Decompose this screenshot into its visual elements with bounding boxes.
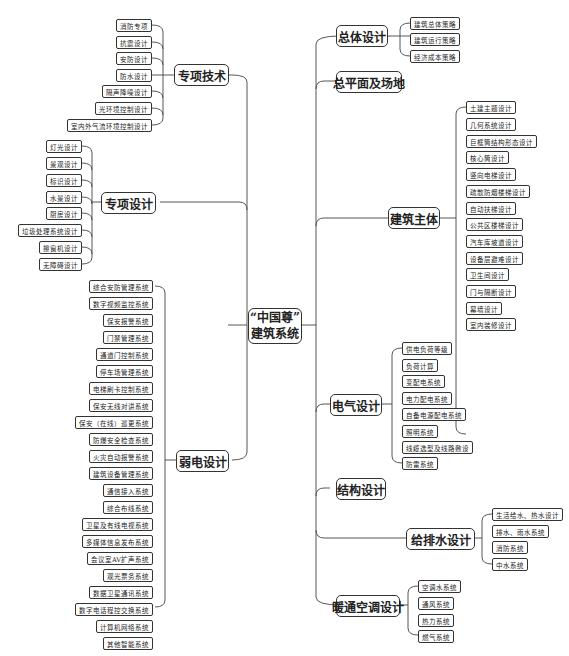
leaf-node[interactable]: 标识设计 xyxy=(46,174,82,187)
leaf-label: 热力系统 xyxy=(422,616,450,626)
leaf-label: 无障碍设计 xyxy=(43,260,78,270)
leaf-node[interactable]: 保安（在线）巡更系统 xyxy=(75,416,153,429)
leaf-node[interactable]: 灯光设计 xyxy=(46,140,82,153)
leaf-node[interactable]: 经济成本策略 xyxy=(410,50,460,63)
leaf-node[interactable]: 燃气系统 xyxy=(418,630,454,643)
leaf-node[interactable]: 数据卫星通讯系统 xyxy=(89,586,153,599)
leaf-node[interactable]: 厨房设计 xyxy=(46,207,82,220)
leaf-node[interactable]: 幕墙设计 xyxy=(466,302,502,315)
branch-ruodian-sheji[interactable]: 弱电设计 xyxy=(176,450,229,472)
leaf-label: 抗震设计 xyxy=(120,38,148,48)
leaf-label: 水景设计 xyxy=(50,193,78,203)
leaf-node[interactable]: 光环境控制设计 xyxy=(95,102,152,115)
leaf-node[interactable]: 热力系统 xyxy=(418,614,454,627)
leaf-node[interactable]: 中水系统 xyxy=(492,558,528,571)
leaf-label: 火灾自动报警系统 xyxy=(93,452,149,462)
leaf-node[interactable]: 消防系统 xyxy=(492,541,528,554)
leaf-node[interactable]: 通道门控制系统 xyxy=(96,348,153,361)
leaf-node[interactable]: 几何系统设计 xyxy=(466,118,516,131)
leaf-node[interactable]: 综合布线系统 xyxy=(103,501,153,514)
leaf-node[interactable]: 无障碍设计 xyxy=(39,258,82,271)
leaf-node[interactable]: 电梯刷卡控制系统 xyxy=(89,382,153,395)
leaf-node[interactable]: 停车场管理系统 xyxy=(96,365,153,378)
leaf-node[interactable]: 保安无线对讲系统 xyxy=(89,399,153,412)
leaf-node[interactable]: 线缆选型及线路敷设 xyxy=(402,441,473,454)
leaf-node[interactable]: 建筑设备管理系统 xyxy=(89,467,153,480)
leaf-node[interactable]: 建筑运行策略 xyxy=(410,33,460,46)
leaf-node[interactable]: 观光票务系统 xyxy=(103,569,153,582)
leaf-node[interactable]: 卫星及有线电视系统 xyxy=(82,518,153,531)
leaf-node[interactable]: 多媒体信息发布系统 xyxy=(82,535,153,548)
leaf-node[interactable]: 防爆安全检查系统 xyxy=(89,433,153,446)
branch-zongti-sheji[interactable]: 总体设计 xyxy=(336,25,388,47)
leaf-node[interactable]: 变配电系统 xyxy=(402,375,445,388)
branch-jipaishui-sheji[interactable]: 给排水设计 xyxy=(406,528,475,550)
leaf-node[interactable]: 安防设计 xyxy=(116,52,152,65)
leaf-node[interactable]: 负荷计算 xyxy=(402,359,438,372)
leaf-node[interactable]: 会议室AV扩声系统 xyxy=(87,552,153,565)
leaf-node[interactable]: 自动扶梯设计 xyxy=(466,202,516,215)
leaf-node[interactable]: 门禁管理系统 xyxy=(103,331,153,344)
leaf-node[interactable]: 疏散防烟楼梯设计 xyxy=(466,185,530,198)
leaf-node[interactable]: 景观设计 xyxy=(46,157,82,170)
leaf-node[interactable]: 计算机网络系统 xyxy=(96,620,153,633)
leaf-node[interactable]: 水景设计 xyxy=(46,191,82,204)
leaf-node[interactable]: 照明系统 xyxy=(402,425,438,438)
leaf-node[interactable]: 室内外气流环境控制设计 xyxy=(67,119,152,132)
leaf-node[interactable]: 通信接入系统 xyxy=(103,484,153,497)
leaf-node[interactable]: 隔声降噪设计 xyxy=(102,85,152,98)
leaf-node[interactable]: 生活给水、热水设计 xyxy=(492,508,563,521)
leaf-node[interactable]: 消防专项 xyxy=(116,19,152,32)
leaf-label: 电力配电系统 xyxy=(406,394,448,404)
leaf-node[interactable]: 火灾自动报警系统 xyxy=(89,450,153,463)
leaf-node[interactable]: 卫生间设计 xyxy=(466,268,509,281)
leaf-label: 照明系统 xyxy=(406,427,434,437)
leaf-node[interactable]: 核心筒设计 xyxy=(466,151,509,164)
leaf-node[interactable]: 汽车库坡道设计 xyxy=(466,235,523,248)
leaf-label: 擦窗机设计 xyxy=(43,243,78,253)
leaf-node[interactable]: 数字电话程控交换系统 xyxy=(75,603,153,616)
branch-zongpingmian[interactable]: 总平面及场地 xyxy=(336,71,402,93)
leaf-node[interactable]: 综合安防管理系统 xyxy=(89,280,153,293)
leaf-node[interactable]: 抗震设计 xyxy=(116,36,152,49)
leaf-label: 卫生间设计 xyxy=(470,270,505,280)
leaf-node[interactable]: 保安报警系统 xyxy=(103,314,153,327)
leaf-node[interactable]: 竖向电梯设计 xyxy=(466,168,516,181)
branch-label: 专项技术 xyxy=(178,67,226,84)
leaf-node[interactable]: 自备电源配电系统 xyxy=(402,408,466,421)
leaf-node[interactable]: 其他智能系统 xyxy=(103,637,153,650)
branch-zhuanxiang-sheji[interactable]: 专项设计 xyxy=(101,192,156,214)
branch-nuantong-sheji[interactable]: 暖通空调设计 xyxy=(336,595,400,617)
leaf-node[interactable]: 数字视频监控系统 xyxy=(89,297,153,310)
leaf-node[interactable]: 室内装修设计 xyxy=(466,318,516,331)
leaf-node[interactable]: 排水、雨水系统 xyxy=(492,525,549,538)
leaf-node[interactable]: 防雷系统 xyxy=(402,457,438,470)
leaf-label: 会议室AV扩声系统 xyxy=(91,554,149,564)
leaf-node[interactable]: 建筑总体策略 xyxy=(410,17,460,30)
leaf-label: 中水系统 xyxy=(496,560,524,570)
leaf-label: 生活给水、热水设计 xyxy=(496,510,559,520)
leaf-label: 光环境控制设计 xyxy=(99,104,148,114)
leaf-node[interactable]: 电力配电系统 xyxy=(402,392,452,405)
leaf-node[interactable]: 擦窗机设计 xyxy=(39,241,82,254)
leaf-node[interactable]: 垃圾处理系统设计 xyxy=(18,224,82,237)
leaf-node[interactable]: 空调水系统 xyxy=(418,580,461,593)
leaf-label: 设备层避难设计 xyxy=(470,254,519,264)
leaf-label: 数字电话程控交换系统 xyxy=(79,605,149,615)
branch-dianqi-sheji[interactable]: 电气设计 xyxy=(330,394,382,416)
leaf-label: 负荷计算 xyxy=(406,361,434,371)
leaf-node[interactable]: 公共区楼梯设计 xyxy=(466,218,523,231)
branch-jianzhu-zhuti[interactable]: 建筑主体 xyxy=(388,207,440,229)
branch-zhuanxiang-jishu[interactable]: 专项技术 xyxy=(174,64,229,86)
leaf-label: 综合安防管理系统 xyxy=(93,282,149,292)
leaf-node[interactable]: 防水设计 xyxy=(116,69,152,82)
root-node[interactable]: “中国尊” 建筑系统 xyxy=(248,308,302,344)
leaf-node[interactable]: 土建主题设计 xyxy=(466,101,516,114)
leaf-node[interactable]: 供电负荷等级 xyxy=(402,342,452,355)
leaf-node[interactable]: 通风系统 xyxy=(418,597,454,610)
leaf-label: 变配电系统 xyxy=(406,377,441,387)
leaf-node[interactable]: 设备层避难设计 xyxy=(466,252,523,265)
leaf-node[interactable]: 门与隔断设计 xyxy=(466,285,516,298)
branch-jiegou-sheji[interactable]: 结构设计 xyxy=(336,478,386,500)
leaf-node[interactable]: 巨框筒结构形态设计 xyxy=(466,135,537,148)
